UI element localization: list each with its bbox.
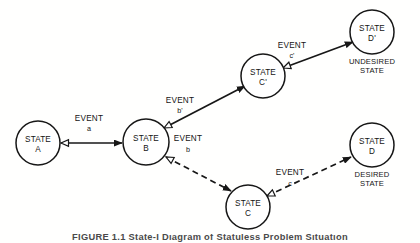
state-node-id-Cprime: C' <box>259 78 267 87</box>
edge-label-b: EVENT <box>174 134 202 143</box>
edge-sublabel-c: c <box>288 179 292 188</box>
state-node-label-A: STATE <box>25 135 51 144</box>
state-node-label-C: STATE <box>235 199 261 208</box>
edge-tail-bprime <box>164 122 172 128</box>
edge-sublabel-b: b <box>186 145 190 154</box>
state-node-label-Dprime: STATE <box>359 24 385 33</box>
edge-sublabel-bprime: b' <box>177 106 183 115</box>
state-node-annotation2-Dprime: STATE <box>360 66 384 75</box>
edge-sublabel-cprime: c' <box>290 51 296 60</box>
state-node-B[interactable]: STATEB <box>123 119 169 165</box>
figure-caption: FIGURE 1.1 State-I Diagram of Statuless … <box>0 234 420 242</box>
state-node-C[interactable]: STATEC <box>226 185 270 229</box>
edge-label-cprime: EVENT <box>278 41 306 50</box>
state-node-id-C: C <box>245 209 251 218</box>
state-node-label-Cprime: STATE <box>250 68 276 77</box>
figure-container: STATEASTATEBSTATEC'STATECSTATED'UNDESIRE… <box>0 0 420 243</box>
state-transition-diagram: STATEASTATEBSTATEC'STATECSTATED'UNDESIRE… <box>0 0 420 243</box>
state-node-annotation-D: DESIRED <box>355 170 390 179</box>
state-node-id-B: B <box>143 144 149 153</box>
state-node-D[interactable]: STATEDDESIREDSTATE <box>350 123 394 188</box>
state-node-id-A: A <box>35 145 41 154</box>
edge-label-c: EVENT <box>276 168 304 177</box>
state-node-Cprime[interactable]: STATEC' <box>241 54 285 98</box>
edge-tail-b <box>166 157 174 163</box>
edge-label-bprime: EVENT <box>166 96 194 105</box>
edge-tail-cprime <box>283 62 291 68</box>
figure-caption-strip: FIGURE 1.1 State-I Diagram of Statuless … <box>0 234 420 243</box>
nodes-layer: STATEASTATEBSTATEC'STATECSTATED'UNDESIRE… <box>16 10 395 229</box>
state-node-id-Dprime: D' <box>368 34 376 43</box>
edge-sublabel-a: a <box>87 124 91 133</box>
state-node-Dprime[interactable]: STATED'UNDESIREDSTATE <box>349 10 395 75</box>
edge-tail-a <box>61 140 69 147</box>
edge-label-a: EVENT <box>75 114 103 123</box>
state-node-A[interactable]: STATEA <box>16 121 60 165</box>
edge-tail-c <box>267 190 275 196</box>
state-node-id-D: D <box>369 147 375 156</box>
edge-b <box>166 157 231 191</box>
state-node-annotation-Dprime: UNDESIRED <box>349 57 395 66</box>
state-node-annotation2-D: STATE <box>360 179 384 188</box>
state-node-label-D: STATE <box>359 137 385 146</box>
edge-bprime <box>164 86 245 128</box>
edges-layer <box>61 42 353 196</box>
state-node-label-B: STATE <box>133 134 159 143</box>
